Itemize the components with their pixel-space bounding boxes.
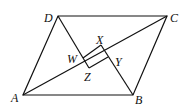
label-b: B [135, 94, 142, 106]
label-y: Y [115, 56, 122, 68]
segment-zy [89, 57, 108, 68]
label-z: Z [84, 71, 91, 83]
label-c: C [170, 12, 178, 24]
diagonal-ac [23, 16, 167, 95]
label-w: W [67, 53, 77, 65]
segment-xb [101, 45, 133, 95]
geometry-figure [0, 0, 184, 111]
label-a: A [11, 92, 18, 104]
label-x: X [96, 34, 103, 46]
label-d: D [44, 12, 53, 24]
